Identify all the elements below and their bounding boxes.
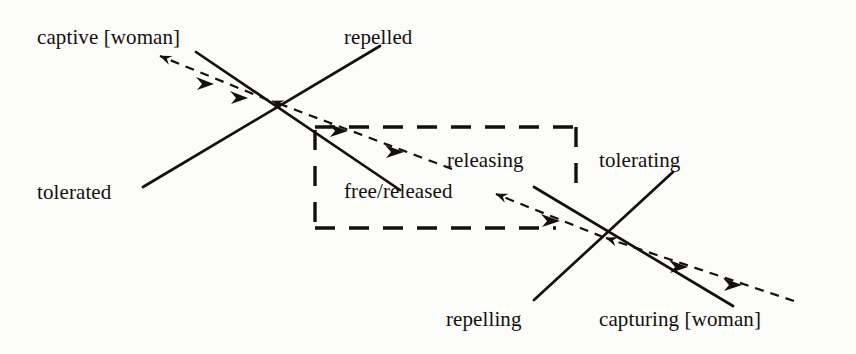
line-tolerated-to-repelled [143,46,380,187]
arrowhead-glyph [196,77,214,90]
label-tolerating: tolerating [599,150,680,171]
diagram-vector-layer [0,0,856,354]
label-capturing-woman: capturing [woman] [599,309,761,330]
label-free-released: free/released [344,181,453,202]
dashed-enclosure-box [315,127,576,228]
label-releasing: releasing [447,150,524,171]
arrowhead-glyph [329,124,348,137]
dashed-arrow-toward-free-released [496,194,603,237]
line-repelling-to-tolerating [534,172,673,300]
arrowhead-cluster-mid-span [329,124,404,158]
arrowhead-glyph [669,260,688,273]
label-repelling: repelling [446,309,522,330]
line-captive-to-free-released [196,52,400,190]
label-tolerated: tolerated [37,182,111,203]
arrowhead-glyph [230,91,248,104]
arrowhead-glyph [385,145,404,158]
line-releasing-to-capturing [534,187,733,306]
dashed-arrow-toward-upper-crossing [272,101,452,169]
label-captive-woman: captive [woman] [37,27,180,48]
label-repelled: repelled [344,27,412,48]
diagram-canvas-root: captive [woman] repelled tolerated relea… [0,0,856,354]
dashed-arrow-toward-lower-crossing [606,238,794,301]
